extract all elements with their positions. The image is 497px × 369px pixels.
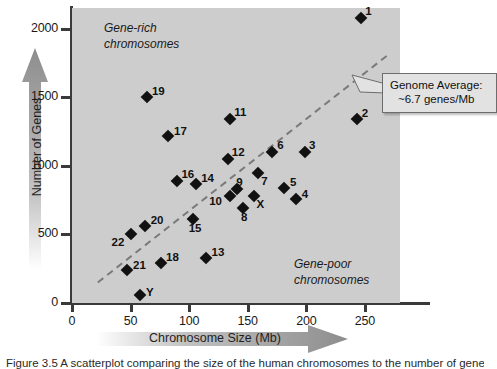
- y-tick-label: 1000: [0, 158, 58, 172]
- data-point-label: 1: [365, 5, 371, 17]
- data-point-label: 5: [290, 176, 296, 188]
- data-point-label: 20: [151, 214, 164, 226]
- data-point-label: 11: [234, 106, 246, 118]
- data-point-label: 14: [201, 172, 214, 184]
- x-tick-label: 250: [335, 314, 395, 328]
- data-point-label: 21: [133, 259, 146, 271]
- callout-line-2: ~6.7 genes/Mb: [398, 92, 491, 106]
- x-axis-title: Chromosome Size (Mb): [110, 331, 320, 345]
- data-point-label: X: [257, 198, 265, 210]
- x-tick-label: 200: [276, 314, 336, 328]
- data-point-label: Y: [146, 286, 154, 298]
- data-point-label: 12: [232, 146, 245, 158]
- x-tick-mark: [130, 303, 133, 312]
- y-tick-label: 1500: [0, 89, 58, 103]
- x-tick-label: 150: [218, 314, 278, 328]
- x-tick-mark: [305, 303, 308, 312]
- data-point-label: 13: [212, 246, 225, 258]
- x-tick-mark: [188, 303, 191, 312]
- callout-line-1: Genome Average:: [390, 78, 491, 92]
- x-tick-mark: [364, 303, 367, 312]
- data-point-label: 8: [241, 211, 247, 223]
- x-tick-mark: [71, 303, 74, 312]
- y-tick-label: 500: [0, 226, 58, 240]
- data-point-label: 10: [209, 195, 222, 207]
- figure-caption: Figure 3.5 A scatterplot comparing the s…: [6, 357, 484, 369]
- y-tick-mark: [61, 96, 71, 99]
- data-point-label: 2: [362, 107, 368, 119]
- y-tick-mark: [61, 28, 71, 31]
- data-point-label: 6: [277, 139, 283, 151]
- y-tick-mark: [61, 302, 71, 305]
- x-tick-label: 0: [42, 314, 102, 328]
- data-point-label: 22: [112, 236, 125, 248]
- trendline-path: [98, 55, 389, 283]
- data-point-label: 16: [181, 168, 194, 180]
- x-tick-mark: [247, 303, 250, 312]
- y-tick-label: 2000: [0, 21, 58, 35]
- data-point-label: 17: [174, 125, 187, 137]
- plot-area: Gene-rich chromosomes Gene-poor chromoso…: [72, 8, 400, 303]
- callout-genome-average: Genome Average: ~6.7 genes/Mb: [382, 73, 497, 113]
- x-tick-label: 100: [159, 314, 219, 328]
- data-point-label: 18: [166, 251, 179, 263]
- data-point-label: 3: [309, 139, 315, 151]
- x-tick-label: 50: [101, 314, 161, 328]
- data-point-label: 9: [236, 176, 242, 188]
- data-point-label: 19: [152, 85, 165, 97]
- y-tick-label: 0: [0, 295, 58, 309]
- y-tick-mark: [61, 233, 71, 236]
- data-point-label: 4: [302, 188, 308, 200]
- data-point-label: 15: [189, 222, 202, 234]
- y-tick-mark: [61, 165, 71, 168]
- data-point-label: 7: [261, 175, 267, 187]
